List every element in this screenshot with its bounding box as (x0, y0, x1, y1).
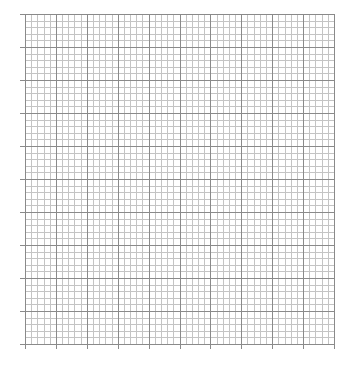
graph-paper-grid (0, 0, 348, 369)
major-gridlines (25, 14, 335, 345)
